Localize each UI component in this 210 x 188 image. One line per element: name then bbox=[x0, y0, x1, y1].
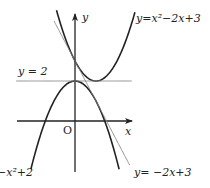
label-horizontal-line: y = 2 bbox=[17, 65, 47, 78]
origin-label: O bbox=[63, 124, 72, 137]
label-upper-parabola: y=x²−2x+3 bbox=[135, 12, 201, 25]
label-tangent-line: y= −2x+3 bbox=[133, 166, 192, 179]
upper-parabola bbox=[57, 10, 135, 81]
label-lower-parabola: −x²+2 bbox=[0, 166, 33, 179]
tangent-line bbox=[54, 21, 130, 165]
function-graph: x y O y=x²−2x+3 y = 2 −x²+2 y= −2x+3 bbox=[0, 0, 210, 188]
y-axis-label: y bbox=[81, 11, 89, 24]
x-axis-label: x bbox=[125, 125, 132, 138]
